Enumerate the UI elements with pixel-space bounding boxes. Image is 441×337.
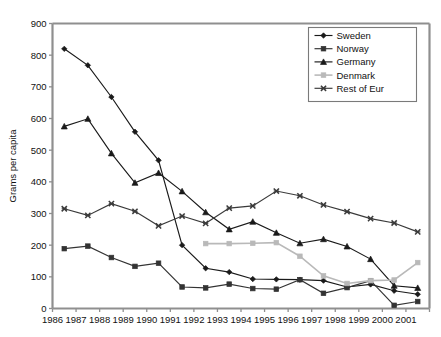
- data-point-marker: [203, 241, 208, 246]
- x-axis: 1986198719881989199019911992199319941995…: [42, 309, 430, 325]
- data-point-marker: [179, 213, 184, 218]
- data-point-marker: [321, 73, 326, 78]
- legend-label: Germany: [337, 56, 376, 67]
- data-point-marker: [392, 220, 397, 225]
- series-rest-of-eur: [62, 188, 421, 234]
- data-point-marker: [321, 291, 326, 296]
- data-point-marker: [297, 193, 302, 198]
- data-point-marker: [132, 209, 137, 214]
- y-axis: 0100200300400500600700800900: [31, 18, 53, 314]
- data-point-marker: [109, 201, 114, 206]
- x-tick-label: 1993: [207, 314, 228, 325]
- data-point-marker: [227, 269, 232, 274]
- x-tick-label: 1986: [42, 314, 63, 325]
- data-point-marker: [203, 221, 208, 226]
- data-point-marker: [392, 303, 397, 308]
- data-point-marker: [85, 116, 91, 122]
- data-point-marker: [321, 46, 326, 51]
- data-point-marker: [274, 188, 279, 193]
- data-point-marker: [274, 287, 279, 292]
- x-tick-label: 2001: [395, 314, 416, 325]
- data-point-marker: [62, 206, 67, 211]
- series-germany: [61, 116, 420, 291]
- data-point-marker: [415, 299, 420, 304]
- x-tick-label: 1999: [348, 314, 369, 325]
- data-point-marker: [368, 256, 374, 262]
- data-point-marker: [298, 254, 303, 259]
- y-tick-label: 100: [31, 271, 47, 282]
- legend-label: Rest of Eur: [337, 83, 385, 94]
- x-tick-label: 1990: [136, 314, 157, 325]
- data-point-marker: [273, 230, 279, 236]
- y-tick-label: 800: [31, 50, 47, 61]
- data-point-marker: [298, 277, 303, 282]
- y-tick-label: 700: [31, 81, 47, 92]
- data-point-marker: [250, 203, 255, 208]
- x-tick-label: 1997: [301, 314, 322, 325]
- data-point-marker: [227, 241, 232, 246]
- data-point-marker: [85, 213, 90, 218]
- x-tick-label: 1995: [254, 314, 275, 325]
- y-tick-label: 300: [31, 208, 47, 219]
- x-tick-label: 1998: [325, 314, 346, 325]
- data-point-marker: [415, 229, 420, 234]
- data-point-marker: [274, 240, 279, 245]
- y-axis-title: Grams per capita: [7, 129, 18, 203]
- y-tick-label: 0: [41, 303, 46, 314]
- chart-container: 0100200300400500600700800900Grams per ca…: [0, 0, 441, 337]
- x-tick-label: 1987: [65, 314, 86, 325]
- x-tick-label: 1988: [89, 314, 110, 325]
- data-point-marker: [368, 278, 373, 283]
- y-tick-label: 400: [31, 176, 47, 187]
- data-point-marker: [133, 264, 138, 269]
- y-tick-label: 500: [31, 145, 47, 156]
- data-point-marker: [156, 170, 162, 176]
- data-point-marker: [321, 278, 326, 283]
- y-tick-label: 600: [31, 113, 47, 124]
- x-tick-label: 1992: [183, 314, 204, 325]
- data-point-marker: [227, 206, 232, 211]
- data-point-marker: [321, 274, 326, 279]
- data-point-marker: [250, 276, 255, 281]
- data-point-marker: [203, 286, 208, 291]
- y-tick-label: 200: [31, 240, 47, 251]
- y-tick-label: 900: [31, 18, 47, 29]
- data-point-marker: [250, 286, 255, 291]
- data-point-marker: [344, 209, 349, 214]
- line-chart: 0100200300400500600700800900Grams per ca…: [0, 0, 441, 337]
- data-point-marker: [321, 202, 326, 207]
- data-point-marker: [392, 278, 397, 283]
- x-tick-label: 1994: [230, 314, 251, 325]
- legend-label: Denmark: [337, 70, 376, 81]
- data-point-marker: [156, 261, 161, 266]
- legend: SwedenNorwayGermanyDenmarkRest of Eur: [309, 28, 417, 102]
- data-point-marker: [156, 223, 161, 228]
- data-point-marker: [345, 281, 350, 286]
- x-tick-label: 1989: [113, 314, 134, 325]
- data-point-marker: [368, 216, 373, 221]
- data-point-marker: [227, 282, 232, 287]
- data-point-marker: [391, 288, 396, 293]
- data-point-marker: [415, 292, 420, 297]
- x-tick-label: 1991: [160, 314, 181, 325]
- legend-label: Norway: [337, 43, 369, 54]
- data-point-marker: [86, 244, 91, 249]
- data-point-marker: [62, 246, 67, 251]
- data-point-marker: [250, 241, 255, 246]
- x-tick-label: 1996: [278, 314, 299, 325]
- data-point-marker: [274, 277, 279, 282]
- legend-label: Sweden: [337, 30, 371, 41]
- data-point-marker: [180, 285, 185, 290]
- x-tick-label: 2000: [372, 314, 393, 325]
- data-point-marker: [250, 219, 256, 225]
- data-point-marker: [415, 260, 420, 265]
- data-point-marker: [320, 236, 326, 242]
- data-point-marker: [109, 255, 114, 260]
